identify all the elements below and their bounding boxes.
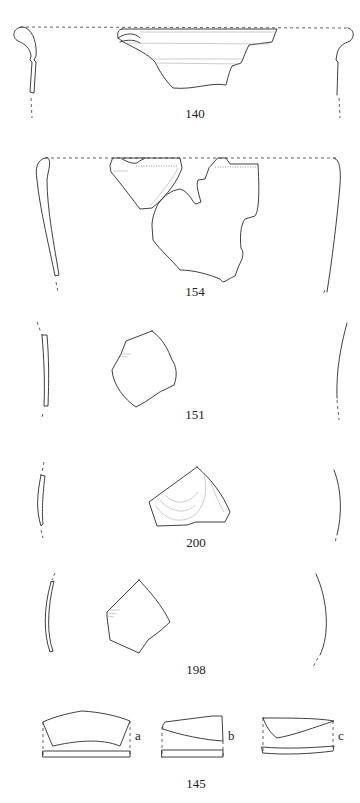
figure-label-200: 200: [166, 535, 226, 551]
figure-200: [38, 462, 341, 543]
figure-label-145: 145: [166, 776, 226, 792]
part-label-b: b: [228, 728, 235, 744]
figure-140: [14, 27, 353, 118]
figure-198: [45, 573, 326, 667]
figure-154: [36, 158, 340, 295]
figure-label-154: 154: [165, 284, 225, 300]
part-label-a: a: [135, 728, 141, 744]
figure-145: [43, 711, 334, 758]
figure-label-151: 151: [165, 407, 225, 423]
figure-label-198: 198: [166, 662, 226, 678]
part-label-c: c: [338, 728, 344, 744]
figure-label-140: 140: [165, 106, 225, 122]
figure-151: [37, 322, 347, 420]
